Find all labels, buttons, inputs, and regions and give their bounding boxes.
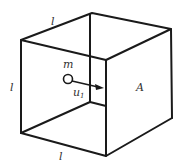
cube-back-right-edge — [171, 29, 172, 118]
face-label: A — [135, 81, 144, 94]
cube-diagram: l l l m u 1 A — [0, 0, 181, 166]
velocity-arrowhead-icon — [95, 84, 104, 90]
particle-icon — [64, 75, 73, 84]
velocity-subscript: 1 — [80, 92, 84, 100]
mass-label: m — [63, 58, 73, 71]
edge-label-left: l — [10, 81, 14, 94]
edge-label-top: l — [51, 15, 55, 28]
cube-back-bottom-edge — [21, 102, 90, 133]
cube-top-edges — [21, 13, 171, 60]
edge-label-bottom: l — [59, 150, 63, 163]
